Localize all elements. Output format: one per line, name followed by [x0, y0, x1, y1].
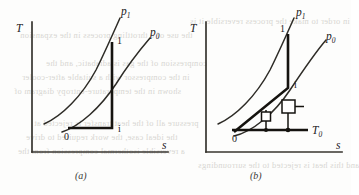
- panel-a-state-1-label: 1: [117, 35, 122, 46]
- large-device-box: [282, 100, 295, 113]
- panel-a-state-i-label: i: [118, 123, 121, 134]
- panel-b-y-axis-label: T: [190, 22, 198, 34]
- panel-b-isotherm-label: T0: [312, 124, 322, 139]
- panel-a-caption: (a): [75, 170, 87, 181]
- small-device-node-dot: [264, 128, 268, 132]
- panel-b-state-0-label: 0: [232, 133, 237, 144]
- panel-a-x-axis-label: s: [162, 139, 167, 151]
- panel-a-label-p0: p0: [149, 26, 160, 41]
- panel-a-isobar-p1-curve: [44, 18, 120, 124]
- panel-b-state-i-label: i: [294, 79, 297, 90]
- panel-b-label-p1: p1: [295, 6, 306, 21]
- panel-b-x-axis-label: s: [336, 139, 341, 151]
- panel-a-isobar-p0-curve: [62, 38, 150, 132]
- panel-a-y-axis-label: T: [16, 22, 24, 34]
- panel-b-caption: (b): [250, 170, 262, 181]
- panel-b-state-1-label: 1: [280, 23, 285, 34]
- panel-a-state-0-label: 0: [64, 131, 69, 142]
- small-device-box: [262, 112, 271, 121]
- panel-a-chart: p1 p0 1 i 0 T s: [0, 0, 176, 168]
- panel-a-label-p1: p1: [120, 5, 131, 20]
- panel-b-label-p0: p0: [325, 30, 336, 45]
- panel-b-chart: p1 p0 1 i 0 T0 T s: [176, 0, 351, 168]
- large-device-node-dot: [286, 128, 291, 133]
- panel-b-large-device: [282, 100, 304, 132]
